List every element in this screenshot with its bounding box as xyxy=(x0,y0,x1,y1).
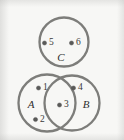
point-dot-1 xyxy=(36,86,40,90)
point-dot-5 xyxy=(42,41,46,45)
venn-diagram-figure: C A B 5 6 1 2 3 4 xyxy=(0,0,124,140)
point-dot-4 xyxy=(71,86,75,90)
set-circle-b xyxy=(45,76,100,131)
point-label-1: 1 xyxy=(43,82,48,92)
point-label-2: 2 xyxy=(40,114,45,124)
venn-diagram-canvas: C A B 5 6 1 2 3 4 xyxy=(0,0,124,140)
point-dot-2 xyxy=(33,117,37,121)
point-label-4: 4 xyxy=(78,82,83,92)
point-dot-3 xyxy=(57,103,61,107)
point-dot-6 xyxy=(69,41,73,45)
set-label-b: B xyxy=(83,98,90,110)
point-label-6: 6 xyxy=(76,37,81,47)
point-label-5: 5 xyxy=(49,37,54,47)
point-label-3: 3 xyxy=(64,99,69,109)
set-label-c: C xyxy=(57,51,65,63)
set-label-a: A xyxy=(27,98,35,110)
